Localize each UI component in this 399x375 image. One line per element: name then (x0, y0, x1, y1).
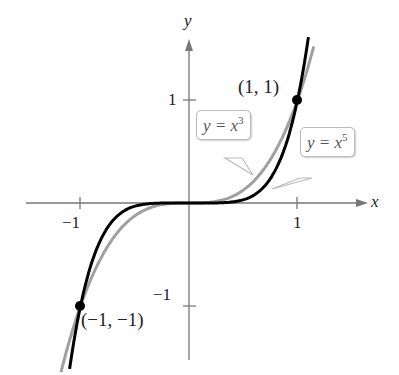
x-axis-arrow-icon (356, 199, 368, 207)
callout-pointer-cube (225, 158, 253, 175)
plot-area (0, 0, 399, 375)
tick-label-y-neg1: −1 (153, 286, 171, 303)
callout-x-cubed-text: y = x (203, 116, 238, 135)
y-axis-label: y (184, 12, 192, 29)
x-axis-label: x (371, 193, 379, 210)
callout-x-cubed: y = x3 (196, 110, 251, 140)
callout-pointer-fifth (272, 178, 312, 189)
callout-x-fifth-exponent: 5 (342, 131, 348, 143)
tick-label-y-1: 1 (168, 91, 177, 108)
point-label-1-1: (1, 1) (238, 77, 279, 96)
callout-x-cubed-exponent: 3 (238, 114, 244, 126)
point-label-neg1-neg1: (−1, −1) (81, 310, 144, 329)
tick-label-x-neg1: −1 (62, 214, 80, 231)
callout-x-fifth: y = x5 (300, 127, 355, 157)
tick-label-x-1: 1 (293, 214, 302, 231)
callout-x-fifth-text: y = x (307, 133, 342, 152)
point-1-1 (292, 95, 302, 105)
y-axis-arrow-icon (185, 39, 193, 51)
